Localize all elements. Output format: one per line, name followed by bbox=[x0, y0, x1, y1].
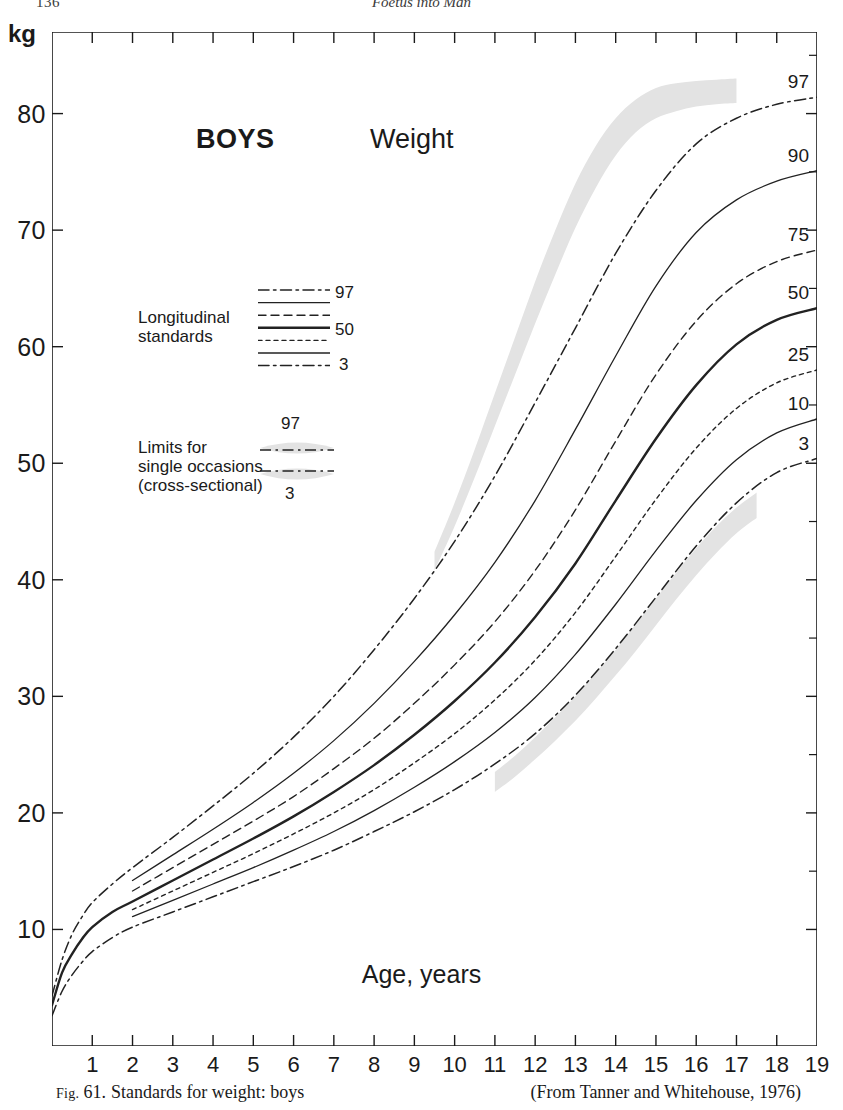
axis-lines-and-ticks bbox=[52, 32, 817, 1046]
chart-title-boys: BOYS bbox=[196, 124, 275, 155]
x-tick-label-16: 16 bbox=[684, 1052, 708, 1078]
figure-caption-number: 61. bbox=[83, 1082, 106, 1102]
x-tick-label-15: 15 bbox=[644, 1052, 668, 1078]
x-tick-label-13: 13 bbox=[563, 1052, 587, 1078]
y-tick-label-20: 20 bbox=[17, 798, 46, 827]
percentile-end-label-90: 90 bbox=[769, 145, 809, 167]
percentile-curves-svg bbox=[52, 32, 817, 1046]
y-tick-label-10: 10 bbox=[17, 915, 46, 944]
percentile-end-label-50: 50 bbox=[769, 282, 809, 304]
percentile-end-label-3: 3 bbox=[769, 433, 809, 455]
legend-longitudinal-standards: Longitudinal standards 97 50 3 bbox=[138, 286, 368, 378]
x-tick-label-17: 17 bbox=[724, 1052, 748, 1078]
legend-band-shape-97 bbox=[260, 443, 334, 454]
x-tick-label-8: 8 bbox=[368, 1052, 380, 1078]
x-tick-label-2: 2 bbox=[126, 1052, 138, 1078]
percentile-end-label-75: 75 bbox=[769, 224, 809, 246]
legend-longitudinal-swatch bbox=[258, 286, 330, 370]
x-tick-label-5: 5 bbox=[247, 1052, 259, 1078]
x-tick-label-11: 11 bbox=[483, 1052, 506, 1078]
growth-chart-figure: kg 1020304050607080 BOYS Weight Age, yea… bbox=[0, 0, 843, 1110]
x-tick-label-4: 4 bbox=[207, 1052, 219, 1078]
figure-caption-fig-label: Fig. bbox=[56, 1086, 79, 1101]
y-tick-label-50: 50 bbox=[17, 449, 46, 478]
legend-longitudinal-label-3: 3 bbox=[339, 355, 348, 375]
x-tick-label-14: 14 bbox=[603, 1052, 627, 1078]
y-tick-label-60: 60 bbox=[17, 332, 46, 361]
chart-title-measure: Weight bbox=[370, 124, 454, 155]
percentile-end-label-97: 97 bbox=[769, 71, 809, 93]
plot-area bbox=[52, 32, 817, 1046]
legend-longitudinal-label-50: 50 bbox=[335, 320, 354, 340]
legend-longitudinal-line1: Longitudinal bbox=[138, 308, 230, 327]
figure-caption-left: Fig.61.Standards for weight: boys bbox=[56, 1082, 304, 1103]
legend-cross-line1: Limits for bbox=[138, 438, 207, 457]
x-axis-title: Age, years bbox=[0, 960, 843, 989]
x-tick-label-1: 1 bbox=[86, 1052, 98, 1078]
x-tick-label-6: 6 bbox=[287, 1052, 299, 1078]
shaded-band-cross-sectional-upper-97 bbox=[435, 79, 737, 571]
legend-cross-label-3: 3 bbox=[285, 484, 294, 504]
legend-cross-label-97: 97 bbox=[281, 414, 300, 434]
x-tick-label-7: 7 bbox=[328, 1052, 340, 1078]
y-tick-label-40: 40 bbox=[17, 565, 46, 594]
x-tick-label-19: 19 bbox=[805, 1052, 829, 1078]
legend-band-shape-3 bbox=[260, 469, 334, 480]
legend-cross-line2: single occasions bbox=[138, 457, 263, 476]
legend-cross-sectional: Limits for single occasions (cross-secti… bbox=[138, 422, 368, 498]
x-axis-tick-labels: 12345678910111213141516171819 bbox=[0, 1052, 843, 1084]
x-tick-label-9: 9 bbox=[408, 1052, 420, 1078]
x-tick-label-12: 12 bbox=[523, 1052, 547, 1078]
legend-longitudinal-line2: standards bbox=[138, 327, 213, 346]
percentile-end-label-10: 10 bbox=[769, 393, 809, 415]
y-tick-label-80: 80 bbox=[17, 99, 46, 128]
legend-cross-sectional-swatch bbox=[258, 432, 336, 488]
y-tick-label-70: 70 bbox=[17, 216, 46, 245]
x-tick-label-18: 18 bbox=[764, 1052, 788, 1078]
figure-caption-text: Standards for weight: boys bbox=[111, 1082, 304, 1102]
x-tick-label-10: 10 bbox=[442, 1052, 466, 1078]
chart-legend: Longitudinal standards 97 50 3 Limits fo… bbox=[138, 286, 368, 498]
percentile-end-label-25: 25 bbox=[769, 344, 809, 366]
y-tick-label-30: 30 bbox=[17, 682, 46, 711]
shaded-band-cross-sectional-lower-3 bbox=[495, 492, 757, 792]
legend-cross-line3: (cross-sectional) bbox=[138, 476, 263, 495]
y-axis-tick-labels: 1020304050607080 bbox=[0, 0, 46, 1110]
x-tick-label-3: 3 bbox=[167, 1052, 179, 1078]
legend-longitudinal-label-97: 97 bbox=[335, 283, 354, 303]
figure-caption: Fig.61.Standards for weight: boys (From … bbox=[0, 1082, 843, 1108]
figure-caption-source: (From Tanner and Whitehouse, 1976) bbox=[530, 1082, 801, 1103]
